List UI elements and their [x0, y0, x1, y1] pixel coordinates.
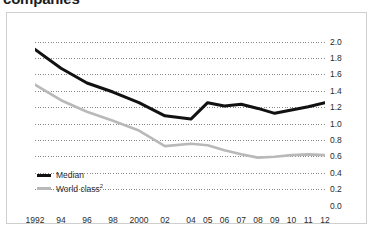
- y-axis-tick-label: 1.6: [330, 69, 342, 79]
- legend-item-median: Median: [37, 169, 103, 182]
- x-axis-tick-label: 12: [320, 215, 329, 225]
- x-axis-tick-label: 04: [186, 215, 195, 225]
- page-title: companies: [3, 0, 80, 7]
- legend-item-world-class: World class2: [37, 182, 103, 195]
- series-world-class-line: [35, 85, 325, 158]
- legend-label-median: Median: [56, 171, 84, 180]
- legend-swatch-world-class: [37, 187, 51, 190]
- y-axis-tick-label: 1.2: [330, 102, 342, 112]
- y-axis-tick-label: 1.0: [330, 119, 342, 129]
- x-axis-tick-label: 2000: [129, 215, 148, 225]
- x-axis-tick-label: 10: [287, 215, 296, 225]
- legend-footnote-marker: 2: [100, 183, 103, 189]
- y-axis-tick-label: 0.4: [330, 168, 342, 178]
- x-axis-tick-label: 07: [236, 215, 245, 225]
- legend-label-world-class-text: World class: [56, 184, 100, 194]
- legend-swatch-median: [37, 174, 51, 177]
- y-axis-tick-label: 0.6: [330, 151, 342, 161]
- x-axis-tick-label: 06: [220, 215, 229, 225]
- y-axis-tick-label: 0.0: [330, 201, 342, 211]
- x-axis-tick-label: 08: [253, 215, 262, 225]
- y-axis-tick-label: 1.8: [330, 53, 342, 63]
- x-axis-tick-label: 05: [203, 215, 212, 225]
- chart-title-clip: companies: [0, 0, 373, 11]
- x-axis-tick-label: 11: [304, 215, 313, 225]
- chart-legend: Median World class2: [37, 169, 103, 195]
- x-axis-tick-label: 98: [108, 215, 117, 225]
- x-axis-tick-label: 09: [270, 215, 279, 225]
- gridlines: [35, 42, 325, 190]
- y-axis-tick-label: 1.4: [330, 86, 342, 96]
- y-axis-tick-label: 2.0: [330, 37, 342, 47]
- chart-frame: 0.00.20.40.60.81.01.21.41.61.82.0 199294…: [6, 12, 367, 224]
- x-axis-tick-label: 96: [82, 215, 91, 225]
- y-axis-tick-label: 0.8: [330, 135, 342, 145]
- x-axis-tick-label: 02: [160, 215, 169, 225]
- x-axis-tick-label: 94: [56, 215, 65, 225]
- y-axis-tick-label: 0.2: [330, 184, 342, 194]
- x-axis-tick-label: 1992: [26, 215, 45, 225]
- legend-label-world-class: World class2: [56, 183, 103, 193]
